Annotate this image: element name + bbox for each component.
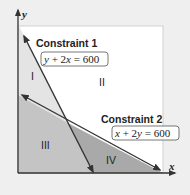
constraint-1-equation: y + 2x = 600 [43, 53, 100, 65]
x-axis-label: x [168, 160, 175, 172]
region-i-label: I [31, 70, 34, 82]
constraint-graph: y x Constraint 1 y + 2x = 600 Constraint… [0, 0, 190, 195]
region-iv-label: IV [106, 154, 116, 166]
y-axis-label: y [20, 8, 27, 20]
constraint-2-equation: x + 2y = 600 [114, 127, 171, 139]
eq2-rhs: = 600 [142, 127, 171, 139]
constraint-1-label: Constraint 1 [36, 37, 97, 49]
constraint-2-label: Constraint 2 [101, 113, 162, 125]
region-ii-label: II [99, 76, 105, 88]
eq1-plus: + 2 [49, 53, 66, 65]
region-iii-label: III [41, 139, 50, 151]
eq1-rhs: = 600 [71, 53, 100, 65]
eq2-plus: + 2 [120, 127, 137, 139]
